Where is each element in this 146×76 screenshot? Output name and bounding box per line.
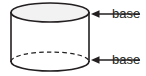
- label-base-bottom: base: [112, 53, 140, 66]
- cylinder-base-diagram: base base: [0, 0, 146, 76]
- label-base-top: base: [112, 7, 140, 20]
- cylinder-top-base-face: [11, 3, 89, 22]
